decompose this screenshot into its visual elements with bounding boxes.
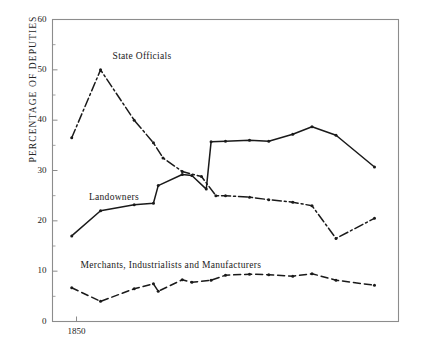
data-point bbox=[224, 140, 227, 143]
data-point bbox=[248, 196, 251, 199]
data-point bbox=[214, 194, 217, 197]
y-tick-20: 20 bbox=[25, 215, 47, 225]
data-point bbox=[373, 217, 376, 220]
data-point bbox=[267, 140, 270, 143]
data-point bbox=[311, 204, 314, 207]
data-point bbox=[224, 194, 227, 197]
data-point bbox=[311, 125, 314, 128]
data-point bbox=[70, 286, 73, 289]
series-line-0 bbox=[72, 70, 375, 239]
series-label-merchants: Merchants, Industrialists and Manufactur… bbox=[81, 260, 262, 270]
data-point bbox=[157, 290, 160, 293]
data-point bbox=[99, 300, 102, 303]
data-point bbox=[373, 165, 376, 168]
data-point bbox=[157, 184, 160, 187]
data-point bbox=[291, 275, 294, 278]
data-point bbox=[181, 170, 184, 173]
data-point bbox=[181, 173, 184, 176]
data-point bbox=[248, 273, 251, 276]
y-tick-0: 0 bbox=[25, 316, 47, 326]
data-point bbox=[335, 237, 338, 240]
series-line-1 bbox=[72, 127, 375, 236]
plot-area bbox=[0, 0, 447, 361]
data-point bbox=[190, 174, 193, 177]
data-point bbox=[70, 234, 73, 237]
data-point bbox=[200, 175, 203, 178]
data-point bbox=[291, 133, 294, 136]
figure-chart-deputies: PERCENTAGE OF DEPUTIES 0102030405060 185… bbox=[0, 0, 447, 361]
data-point bbox=[152, 141, 155, 144]
data-point bbox=[205, 188, 208, 191]
data-point bbox=[70, 136, 73, 139]
data-point bbox=[190, 281, 193, 284]
y-tick-40: 40 bbox=[25, 114, 47, 124]
data-point bbox=[335, 279, 338, 282]
x-tick-1850: 1850 bbox=[57, 326, 97, 336]
series-label-state-officials: State Officials bbox=[113, 51, 172, 61]
y-tick-50: 50 bbox=[25, 64, 47, 74]
data-point bbox=[291, 201, 294, 204]
data-point bbox=[181, 278, 184, 281]
data-point bbox=[133, 203, 136, 206]
data-point bbox=[133, 287, 136, 290]
data-point bbox=[267, 198, 270, 201]
data-point bbox=[152, 202, 155, 205]
data-point bbox=[152, 282, 155, 285]
data-point bbox=[99, 209, 102, 212]
data-point bbox=[267, 273, 270, 276]
y-tick-60: 60 bbox=[25, 14, 47, 24]
data-point bbox=[210, 140, 213, 143]
data-point bbox=[133, 119, 136, 122]
data-point bbox=[311, 272, 314, 275]
data-point bbox=[162, 156, 165, 159]
series-label-landowners: Landowners bbox=[89, 192, 139, 202]
data-point bbox=[373, 284, 376, 287]
y-tick-30: 30 bbox=[25, 165, 47, 175]
data-point bbox=[210, 279, 213, 282]
series-line-2 bbox=[72, 274, 375, 302]
y-tick-10: 10 bbox=[25, 265, 47, 275]
data-point bbox=[248, 139, 251, 142]
data-point bbox=[335, 134, 338, 137]
data-point bbox=[99, 68, 102, 71]
data-point bbox=[224, 274, 227, 277]
